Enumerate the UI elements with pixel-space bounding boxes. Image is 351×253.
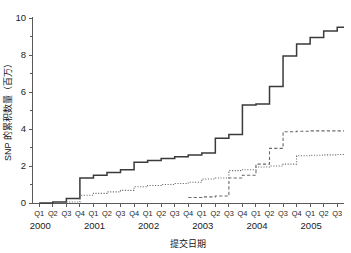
x-quarter-label: Q4 [237,209,247,218]
x-quarter-label: Q4 [129,209,139,218]
data-series-group [39,27,344,203]
x-quarter-label: Q1 [197,209,207,218]
x-quarter-label: Q3 [170,209,180,218]
x-quarter-label: Q1 [305,209,315,218]
x-axis: Q1Q2Q3Q4Q1Q2Q3Q4Q1Q2Q3Q4Q1Q2Q3Q4Q1Q2Q3Q4… [30,203,344,231]
y-tick-label: 0 [21,197,26,208]
y-axis-title: SNP 的累积数量（百万） [2,59,13,161]
x-quarter-label: Q1 [34,209,44,218]
solid-series [39,27,344,203]
x-quarter-label: Q1 [89,209,99,218]
dashed-series [188,131,344,198]
x-quarter-label: Q2 [156,209,166,218]
y-tick-label: 4 [21,123,26,134]
x-quarter-label: Q2 [102,209,112,218]
x-quarter-label: Q3 [278,209,288,218]
x-quarter-label: Q4 [292,209,302,218]
x-year-label: 2003 [192,220,213,231]
y-axis: 0246810 [15,12,32,208]
x-quarter-label: Q3 [116,209,126,218]
x-year-label: 2000 [30,220,51,231]
x-quarter-label: Q3 [61,209,71,218]
y-tick-label: 2 [21,160,26,171]
x-quarter-label: Q4 [75,209,85,218]
x-quarter-label: Q2 [48,209,58,218]
y-tick-label: 10 [15,12,26,23]
x-quarter-label: Q4 [183,209,193,218]
x-quarter-label: Q2 [319,209,329,218]
x-year-label: 2004 [246,220,267,231]
x-quarter-label: Q2 [265,209,275,218]
x-quarter-label: Q3 [224,209,234,218]
x-quarter-label: Q1 [251,209,261,218]
dotted-series [66,155,344,203]
x-quarter-label: Q2 [210,209,220,218]
chart-container: 0246810 Q1Q2Q3Q4Q1Q2Q3Q4Q1Q2Q3Q4Q1Q2Q3Q4… [0,0,351,253]
x-year-label: 2001 [84,220,105,231]
y-tick-label: 8 [21,49,26,60]
x-year-label: 2005 [301,220,322,231]
x-quarter-label: Q3 [332,209,342,218]
x-axis-title: 提交日期 [170,238,206,249]
y-tick-label: 6 [21,86,26,97]
x-quarter-label: Q1 [143,209,153,218]
x-year-label: 2002 [138,220,159,231]
snp-cumulative-line-chart: 0246810 Q1Q2Q3Q4Q1Q2Q3Q4Q1Q2Q3Q4Q1Q2Q3Q4… [0,0,351,253]
